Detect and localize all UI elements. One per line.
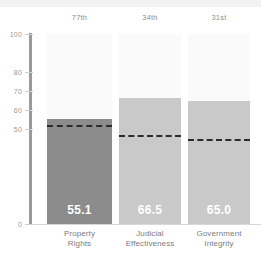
y-tick-label-0: 0 — [0, 221, 22, 228]
y-tick-mark-80 — [25, 72, 33, 73]
category-label-3-line-1: Government — [183, 229, 255, 239]
category-label-2-line-1: Judicial — [114, 229, 186, 239]
bar-value-label-3: 65.0 — [188, 203, 250, 217]
y-tick-mark-70 — [25, 91, 33, 92]
bar-government-integrity[interactable]: 65.0 — [188, 101, 250, 224]
rank-label-1: 77th — [47, 13, 112, 22]
y-tick-label-100: 100 — [0, 31, 22, 38]
reference-line-3 — [188, 139, 250, 141]
rank-label-3: 31st — [188, 13, 250, 22]
bar-value-label-2: 66.5 — [119, 203, 181, 217]
category-label-3: Government Integrity — [183, 229, 255, 249]
category-label-1: Property Rights — [44, 229, 115, 249]
category-label-3-line-2: Integrity — [183, 239, 255, 249]
y-tick-mark-0 — [25, 224, 33, 225]
bar-property-rights[interactable]: 55.1 — [47, 119, 112, 224]
category-label-1-line-2: Rights — [44, 239, 115, 249]
y-tick-mark-60 — [25, 110, 33, 111]
category-label-2-line-2: Effectiveness — [114, 239, 186, 249]
chart-container: 100 80 70 60 50 0 77th 34th 31st 55.1 66… — [0, 0, 261, 260]
reference-line-1 — [47, 125, 112, 127]
y-tick-mark-100 — [25, 34, 33, 35]
rank-label-2: 34th — [119, 13, 181, 22]
plot-area: 100 80 70 60 50 0 77th 34th 31st 55.1 66… — [0, 0, 261, 260]
category-label-2: Judicial Effectiveness — [114, 229, 186, 249]
x-axis-baseline — [30, 224, 261, 225]
bar-value-label-1: 55.1 — [47, 203, 112, 217]
category-label-1-line-1: Property — [44, 229, 115, 239]
y-tick-label-80: 80 — [0, 69, 22, 76]
reference-line-2 — [119, 135, 181, 137]
y-tick-label-70: 70 — [0, 88, 22, 95]
bar-judicial-effectiveness[interactable]: 66.5 — [119, 98, 181, 224]
y-tick-label-60: 60 — [0, 107, 22, 114]
y-tick-label-50: 50 — [0, 126, 22, 133]
y-tick-mark-50 — [25, 129, 33, 130]
